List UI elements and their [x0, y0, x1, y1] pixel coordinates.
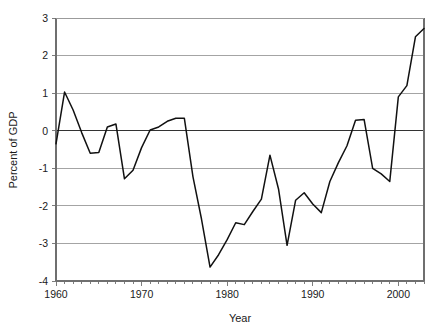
- y-tick-label: -2: [39, 200, 48, 212]
- x-tick-label: 1960: [44, 288, 68, 300]
- x-axis-title: Year: [229, 312, 252, 324]
- y-tick-label: 1: [42, 87, 48, 99]
- y-tick-label: 2: [42, 49, 48, 61]
- y-tick-label: 3: [42, 12, 48, 24]
- y-tick-label: -4: [39, 275, 48, 287]
- y-tick-label: -3: [39, 237, 48, 249]
- line-chart: 3210-1-2-3-4 19601970198019902000 Percen…: [0, 0, 438, 334]
- x-tick-label: 1970: [130, 288, 154, 300]
- x-tick-label: 1980: [215, 288, 239, 300]
- y-tick-label: 0: [42, 125, 48, 137]
- y-axis-title: Percent of GDP: [7, 111, 19, 188]
- chart-figure: 3210-1-2-3-4 19601970198019902000 Percen…: [0, 0, 438, 334]
- x-tick-label: 1990: [301, 288, 325, 300]
- y-tick-label: -1: [39, 162, 48, 174]
- x-tick-label: 2000: [387, 288, 411, 300]
